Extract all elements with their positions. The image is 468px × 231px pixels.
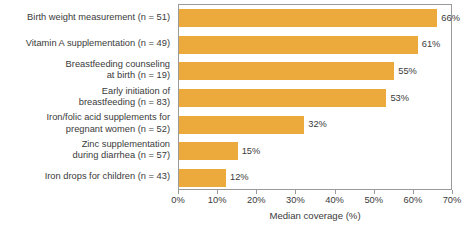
category-label: Vitamin A supplementation (n = 49)	[0, 38, 170, 49]
x-tick-label: 70%	[443, 195, 462, 206]
x-axis: Median coverage (%) 0%10%20%30%40%50%60%…	[178, 190, 452, 231]
bar-value-label: 32%	[308, 119, 327, 130]
x-tick-mark	[217, 190, 218, 194]
bar-value-label: 61%	[422, 39, 441, 50]
bar	[179, 36, 418, 54]
x-tick-mark	[256, 190, 257, 194]
bar	[179, 169, 226, 187]
bar	[179, 89, 386, 107]
bar	[179, 142, 238, 160]
plot-area: 66%61%55%53%32%15%12%	[178, 4, 452, 190]
category-label: Zinc supplementation during diarrhea (n …	[0, 139, 170, 161]
x-tick-mark	[413, 190, 414, 194]
category-label: Early initiation of breastfeeding (n = 8…	[0, 86, 170, 108]
x-tick-label: 40%	[325, 195, 344, 206]
bar-chart: Birth weight measurement (n = 51)Vitamin…	[0, 0, 468, 231]
bar-value-label: 15%	[242, 146, 261, 157]
category-label: Birth weight measurement (n = 51)	[0, 12, 170, 23]
x-tick-label: 10%	[208, 195, 227, 206]
x-tick-mark	[178, 190, 179, 194]
bars-container: 66%61%55%53%32%15%12%	[179, 5, 451, 189]
bar-value-label: 53%	[390, 93, 409, 104]
category-label: Breastfeeding counseling at birth (n = 1…	[0, 59, 170, 81]
x-tick-label: 0%	[171, 195, 184, 206]
x-tick-label: 60%	[404, 195, 423, 206]
x-tick-mark	[374, 190, 375, 194]
bar	[179, 116, 304, 134]
bar	[179, 62, 394, 80]
bar-value-label: 12%	[230, 172, 249, 183]
x-tick-label: 20%	[247, 195, 266, 206]
x-tick-mark	[335, 190, 336, 194]
category-label: Iron drops for children (n = 43)	[0, 171, 170, 182]
x-tick-mark	[295, 190, 296, 194]
x-tick-label: 30%	[286, 195, 305, 206]
bar-value-label: 55%	[398, 66, 417, 77]
bar	[179, 9, 437, 27]
category-axis-labels: Birth weight measurement (n = 51)Vitamin…	[0, 4, 174, 190]
x-axis-title: Median coverage (%)	[178, 210, 452, 221]
category-label: Iron/folic acid supplements for pregnant…	[0, 112, 170, 134]
x-tick-label: 50%	[364, 195, 383, 206]
bar-value-label: 66%	[441, 13, 460, 24]
x-tick-mark	[452, 190, 453, 194]
